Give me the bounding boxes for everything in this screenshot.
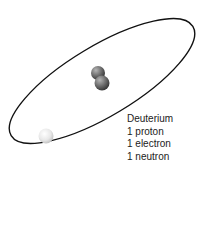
- nucleon-bottom: [95, 76, 110, 91]
- legend-text: Deuterium 1 proton 1 electron 1 neutron: [127, 113, 173, 163]
- electron-count: 1 electron: [127, 138, 173, 151]
- neutron-count: 1 neutron: [127, 151, 173, 164]
- element-name: Deuterium: [127, 113, 173, 126]
- electron: [39, 129, 54, 144]
- proton-count: 1 proton: [127, 126, 173, 139]
